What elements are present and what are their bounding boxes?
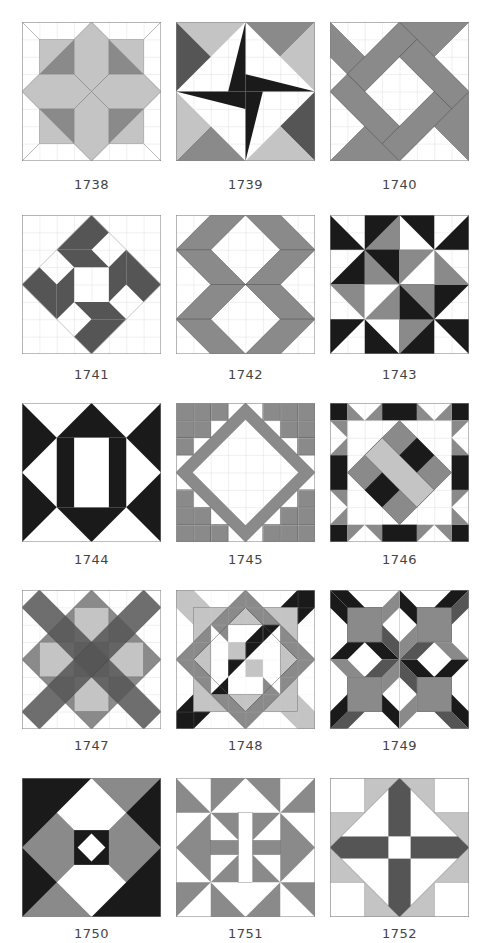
quilt-block-1752-diagram bbox=[330, 778, 469, 917]
block-number-label: 1750 bbox=[22, 926, 161, 941]
block-number-label: 1744 bbox=[22, 552, 161, 567]
block-number-label: 1752 bbox=[330, 926, 469, 941]
quilt-block-1741-diagram bbox=[22, 215, 161, 354]
block-number-label: 1748 bbox=[176, 738, 315, 753]
quilt-block-1741 bbox=[22, 215, 161, 354]
quilt-block-1747-diagram bbox=[22, 590, 161, 729]
quilt-block-1750-diagram bbox=[22, 778, 161, 917]
quilt-block-1748 bbox=[176, 590, 315, 729]
quilt-block-1743-diagram bbox=[330, 215, 469, 354]
quilt-block-1742 bbox=[176, 215, 315, 354]
quilt-block-1745-diagram bbox=[176, 403, 315, 542]
block-number-label: 1738 bbox=[22, 177, 161, 192]
block-number-label: 1739 bbox=[176, 177, 315, 192]
quilt-block-1738 bbox=[22, 22, 161, 161]
block-number-label: 1745 bbox=[176, 552, 315, 567]
block-number-label: 1747 bbox=[22, 738, 161, 753]
quilt-block-1740 bbox=[330, 22, 469, 161]
quilt-block-1752 bbox=[330, 778, 469, 917]
block-number-label: 1742 bbox=[176, 367, 315, 382]
quilt-block-1751 bbox=[176, 778, 315, 917]
quilt-block-1738-diagram bbox=[22, 22, 161, 161]
quilt-block-1743 bbox=[330, 215, 469, 354]
block-number-label: 1740 bbox=[330, 177, 469, 192]
quilt-block-1748-diagram bbox=[176, 590, 315, 729]
block-number-label: 1746 bbox=[330, 552, 469, 567]
quilt-block-1749 bbox=[330, 590, 469, 729]
block-number-label: 1743 bbox=[330, 367, 469, 382]
quilt-block-1749-diagram bbox=[330, 590, 469, 729]
quilt-block-1744-diagram bbox=[22, 403, 161, 542]
quilt-block-1750 bbox=[22, 778, 161, 917]
quilt-block-1739-diagram bbox=[176, 22, 315, 161]
block-number-label: 1741 bbox=[22, 367, 161, 382]
quilt-block-1742-diagram bbox=[176, 215, 315, 354]
quilt-block-1746 bbox=[330, 403, 469, 542]
quilt-block-1747 bbox=[22, 590, 161, 729]
quilt-block-1739 bbox=[176, 22, 315, 161]
quilt-block-1746-diagram bbox=[330, 403, 469, 542]
quilt-block-1751-diagram bbox=[176, 778, 315, 917]
quilt-block-1740-diagram bbox=[330, 22, 469, 161]
quilt-block-1744 bbox=[22, 403, 161, 542]
block-number-label: 1749 bbox=[330, 738, 469, 753]
block-number-label: 1751 bbox=[176, 926, 315, 941]
quilt-block-1745 bbox=[176, 403, 315, 542]
